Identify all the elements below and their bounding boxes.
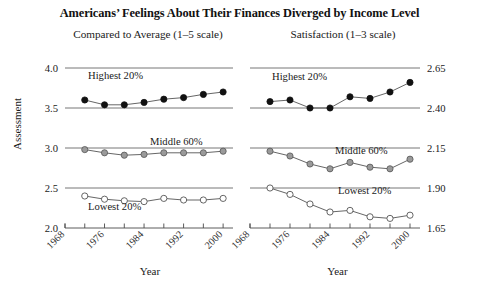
data-point — [267, 185, 273, 191]
x-tick-label: 1968 — [229, 229, 251, 251]
data-point — [387, 89, 393, 95]
data-point — [387, 166, 393, 172]
data-point — [407, 212, 413, 218]
y-tick-label: 4.0 — [45, 63, 58, 74]
data-point — [180, 95, 186, 101]
x-tick-label: 1976 — [269, 229, 291, 251]
y-tick-label: 2.15 — [427, 143, 446, 154]
data-point — [82, 147, 88, 153]
data-point — [200, 91, 206, 97]
data-point — [161, 150, 167, 156]
data-point — [141, 151, 147, 157]
series-label-highest: Highest 20% — [88, 70, 143, 81]
panel-right: 1.651.902.152.402.6519681976198419922000… — [229, 63, 445, 251]
data-point — [82, 97, 88, 103]
data-point — [82, 193, 88, 199]
series-label-lowest: Lowest 20% — [88, 201, 141, 212]
x-tick-label: 1984 — [123, 229, 145, 251]
series-label-highest: Highest 20% — [272, 71, 327, 82]
data-point — [200, 197, 206, 203]
panel-left: 2.02.53.03.54.019681976198419922000Highe… — [44, 63, 233, 251]
y-tick-label: 1.65 — [427, 223, 446, 234]
plot-area: 2.02.53.03.54.019681976198419922000Highe… — [0, 0, 479, 289]
data-point — [121, 102, 127, 108]
x-tick-label: 2000 — [202, 229, 224, 251]
data-point — [367, 214, 373, 220]
chart-figure: Americans’ Feelings About Their Finances… — [0, 0, 479, 289]
x-tick-label: 2000 — [389, 229, 411, 251]
data-point — [327, 209, 333, 215]
data-point — [407, 79, 413, 85]
data-point — [327, 166, 333, 172]
y-tick-label: 1.90 — [427, 183, 446, 194]
data-point — [367, 164, 373, 170]
data-point — [407, 156, 413, 162]
series-highest-20 — [82, 89, 227, 108]
data-point — [307, 105, 313, 111]
series-highest-20 — [267, 79, 413, 111]
data-point — [387, 215, 393, 221]
data-point — [347, 159, 353, 165]
data-point — [307, 201, 313, 207]
series-label-middle: Middle 60% — [150, 136, 203, 147]
data-point — [101, 102, 107, 108]
y-tick-label: 3.0 — [45, 143, 58, 154]
y-tick-label: 2.65 — [427, 63, 446, 74]
data-point — [267, 148, 273, 154]
x-tick-label: 1992 — [163, 229, 185, 251]
y-tick-label: 2.5 — [45, 183, 58, 194]
data-point — [267, 99, 273, 105]
data-point — [220, 195, 226, 201]
y-tick-label: 3.5 — [45, 103, 58, 114]
x-tick-label: 1984 — [309, 229, 331, 251]
data-point — [347, 207, 353, 213]
data-point — [180, 197, 186, 203]
data-point — [287, 153, 293, 159]
data-point — [121, 152, 127, 158]
x-tick-label: 1992 — [349, 229, 371, 251]
data-point — [307, 161, 313, 167]
data-point — [287, 191, 293, 197]
data-point — [161, 195, 167, 201]
data-point — [327, 105, 333, 111]
data-point — [141, 199, 147, 205]
data-point — [161, 96, 167, 102]
data-point — [101, 150, 107, 156]
data-point — [287, 97, 293, 103]
data-point — [180, 150, 186, 156]
data-point — [367, 95, 373, 101]
data-point — [347, 94, 353, 100]
data-point — [141, 99, 147, 105]
data-point — [220, 148, 226, 154]
x-tick-label: 1976 — [84, 229, 106, 251]
data-point — [200, 150, 206, 156]
series-label-middle: Middle 60% — [335, 145, 388, 156]
series-label-lowest: Lowest 20% — [338, 185, 391, 196]
data-point — [220, 89, 226, 95]
y-tick-label: 2.40 — [427, 103, 446, 114]
